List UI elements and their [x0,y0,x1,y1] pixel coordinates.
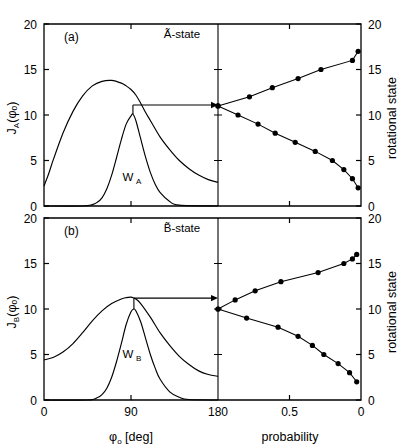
y-axis-title-b-text: JB(φₒ) [5,296,21,329]
distribution-lower-branch-b [218,309,357,382]
data-point [235,112,240,117]
data-point [356,49,361,54]
distribution-upper-branch-b [218,254,357,309]
y-axis-tick-label-left: 5 [30,154,37,168]
data-point [295,334,300,339]
x-axis-tick-label: 180 [208,405,228,419]
y-axis-tick-label-right: 15 [368,63,382,77]
y-axis-title-b: JB(φₒ) [5,296,21,329]
y-axis-tick-label-left: 20 [24,212,38,226]
data-point [350,256,355,261]
data-point [310,343,315,348]
y-axis-tick-label-left: 0 [30,394,37,408]
y-axis-tick-label-right: 10 [368,303,382,317]
data-point [354,252,359,257]
y-axis-tick-label-right: 10 [368,109,382,123]
data-point [316,270,321,275]
data-point [253,288,258,293]
panel-b-title: B̃-state [164,222,200,234]
data-point [336,361,341,366]
curve-W-A [44,114,218,206]
y-axis-tick-label-left: 20 [24,18,38,32]
x-axis-tick-label: 90 [124,405,138,419]
data-point [275,325,280,330]
x-axis-title-right: probability [262,430,320,444]
y-axis-tick-label-right: 5 [368,348,375,362]
axes-frame [44,24,361,206]
data-point [341,167,346,172]
data-point [270,85,275,90]
x-axis-tick-label: 0 [41,405,48,419]
y-axis-tick-label-right: 15 [368,257,382,271]
data-point [321,352,326,357]
y-axis-title-right-b: rotational state [385,271,399,353]
data-point [350,176,355,181]
y-axis-title-right-a-text: rotational state [385,77,399,159]
data-point [354,379,359,384]
panel-a-title: Ã-state [164,28,200,40]
y-axis-title-a: JA(φₒ) [5,102,21,135]
y-axis-tick-label-right: 5 [368,154,375,168]
data-point [295,76,300,81]
data-point [255,122,260,127]
data-point [233,297,238,302]
panel-a-axes [44,24,361,206]
distribution-lower-branch-a [218,106,358,188]
distribution-upper-branch-a [218,51,358,106]
y-axis-tick-label-right: 20 [368,18,382,32]
y-axis-tick-label-left: 15 [24,63,38,77]
annotation-arrowhead-b [211,295,218,301]
data-point [330,158,335,163]
x-axis-tick-label: 0 [358,405,365,419]
y-axis-tick-label-left: 10 [24,109,38,123]
data-point [247,94,252,99]
curve-label-W-A: W [123,171,134,183]
data-point [313,149,318,154]
y-axis-tick-label-right: 0 [368,394,375,408]
curve-label-W-B: W [123,348,134,360]
scientific-figure: 0510152005101520(a)Ã-stateWA051015200510… [0,0,407,446]
x-axis-title-left-text: φo [deg] [109,430,153,446]
panel-a-tag: (a) [64,30,79,44]
figure-container: 0510152005101520(a)Ã-stateWA051015200510… [0,0,407,446]
data-point [341,261,346,266]
data-point [318,67,323,72]
x-axis-title-left: φo [deg] [109,430,153,446]
y-axis-tick-label-right: 20 [368,212,382,226]
panel-a-curves [44,80,218,206]
y-axis-tick-label-left: 15 [24,257,38,271]
data-point [244,316,249,321]
data-point [350,58,355,63]
data-point [215,306,220,311]
y-axis-title-right-a: rotational state [385,77,399,159]
panel-b-tag: (b) [64,224,79,238]
data-point [356,185,361,190]
curve-label-W-A-subscript: A [136,177,142,186]
data-point [293,140,298,145]
curve-label-W-B-subscript: B [136,354,141,363]
y-axis-title-right-b-text: rotational state [385,271,399,353]
data-point [273,131,278,136]
data-point [278,279,283,284]
panel-b-distribution [215,252,359,385]
y-axis-tick-label-left: 10 [24,303,38,317]
data-point [215,103,220,108]
y-axis-title-a-text: JA(φₒ) [5,102,21,135]
panel-a-distribution [215,49,360,191]
data-point [347,370,352,375]
curve-J-B [44,297,218,376]
x-axis-tick-label: 0.5 [281,405,298,419]
y-axis-tick-label-left: 5 [30,348,37,362]
